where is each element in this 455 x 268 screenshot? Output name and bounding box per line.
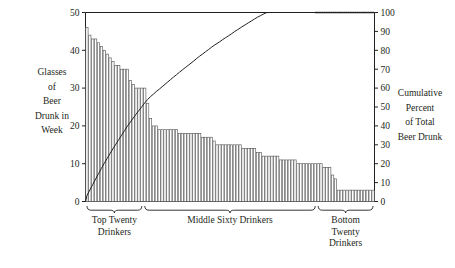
bar xyxy=(305,164,307,202)
bar xyxy=(369,190,371,201)
bar xyxy=(242,149,244,202)
bar xyxy=(216,145,218,202)
bar xyxy=(320,164,322,202)
bar xyxy=(135,88,137,201)
bar xyxy=(346,190,348,201)
bar xyxy=(360,190,362,201)
right-tick-label: 70 xyxy=(381,65,391,75)
bar xyxy=(219,145,221,202)
bar xyxy=(262,156,264,201)
bar xyxy=(294,160,296,202)
bar xyxy=(303,164,305,202)
bar xyxy=(285,160,287,202)
bar xyxy=(126,69,128,201)
right-axis-title-line: Cumulative xyxy=(398,88,442,98)
bar xyxy=(196,133,198,201)
bar xyxy=(323,167,325,201)
bar xyxy=(109,58,111,202)
bar xyxy=(178,133,180,201)
bar xyxy=(256,152,258,201)
bar xyxy=(329,167,331,201)
bar xyxy=(207,137,209,201)
group-label: Twenty xyxy=(331,227,360,237)
bar xyxy=(308,164,310,202)
right-tick-label: 90 xyxy=(381,27,391,37)
bar xyxy=(138,88,140,201)
left-axis-title-line: Glasses xyxy=(37,67,66,77)
bar xyxy=(146,103,148,201)
bar xyxy=(89,35,91,201)
bar xyxy=(158,130,160,202)
bar xyxy=(213,141,215,201)
bar xyxy=(129,81,131,202)
bar xyxy=(274,156,276,201)
bar xyxy=(233,145,235,202)
bar xyxy=(291,160,293,202)
bar xyxy=(331,175,333,201)
bar xyxy=(271,156,273,201)
pareto-chart: 01020304050 0102030405060708090100 Top T… xyxy=(0,0,455,268)
bar xyxy=(311,164,313,202)
bar xyxy=(279,160,281,202)
bar xyxy=(222,145,224,202)
bar xyxy=(106,54,108,201)
group-label: Bottom xyxy=(331,215,360,225)
bar xyxy=(100,47,102,202)
group-label: Top Twenty xyxy=(92,215,137,225)
bar xyxy=(132,84,134,201)
bar xyxy=(187,133,189,201)
bar xyxy=(245,149,247,202)
bar xyxy=(227,145,229,202)
left-axis-title-line: Week xyxy=(41,125,63,135)
bar xyxy=(92,39,94,202)
bar xyxy=(225,145,227,202)
bar xyxy=(190,133,192,201)
bar xyxy=(181,133,183,201)
left-tick-label: 20 xyxy=(70,121,80,131)
right-axis-title-line: Beer Drunk xyxy=(398,132,443,142)
bar xyxy=(175,130,177,202)
bar xyxy=(97,43,99,202)
group-label: Drinkers xyxy=(98,227,132,237)
bar xyxy=(161,130,163,202)
right-tick-label: 20 xyxy=(381,159,391,169)
right-tick-label: 0 xyxy=(381,197,386,207)
right-tick-label: 80 xyxy=(381,46,391,56)
bar xyxy=(300,164,302,202)
bar xyxy=(297,164,299,202)
bar xyxy=(112,62,114,202)
bar xyxy=(149,118,151,201)
bar xyxy=(337,190,339,201)
bar xyxy=(357,190,359,201)
left-tick-label: 50 xyxy=(70,8,80,18)
chart-background xyxy=(0,0,455,268)
bar xyxy=(184,133,186,201)
bar xyxy=(363,190,365,201)
bar xyxy=(340,190,342,201)
bar xyxy=(334,179,336,202)
group-label: Middle Sixty Drinkers xyxy=(187,215,273,225)
right-tick-label: 10 xyxy=(381,178,391,188)
right-tick-label: 60 xyxy=(381,83,391,93)
bar xyxy=(265,156,267,201)
group-label: Drinkers xyxy=(329,238,363,248)
bar xyxy=(314,164,316,202)
right-tick-label: 100 xyxy=(381,8,396,18)
bar xyxy=(326,167,328,201)
bar xyxy=(230,145,232,202)
bar xyxy=(193,133,195,201)
bar xyxy=(248,149,250,202)
bar xyxy=(259,152,261,201)
bar xyxy=(372,190,374,201)
bar xyxy=(355,190,357,201)
bar xyxy=(288,160,290,202)
bar xyxy=(349,190,351,201)
right-axis-title-line: Percent xyxy=(406,103,435,113)
bar xyxy=(236,145,238,202)
bar xyxy=(155,126,157,202)
bar xyxy=(167,130,169,202)
left-axis-title-line: Beer xyxy=(43,96,62,106)
bar xyxy=(115,65,117,201)
bar xyxy=(199,133,201,201)
left-tick-label: 30 xyxy=(70,83,80,93)
